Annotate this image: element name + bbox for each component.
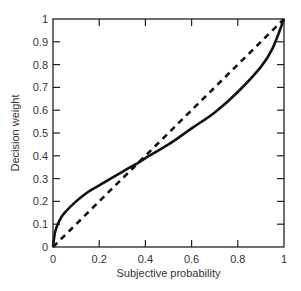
y-tick-label: 0.2 [33, 195, 48, 207]
series-layer [53, 19, 284, 247]
probability-weighting-chart: 00.10.20.30.40.50.60.70.80.91 00.20.40.6… [0, 0, 301, 291]
x-axis-title: Subjective probability [117, 267, 221, 279]
y-tick-label: 0.5 [33, 127, 48, 139]
y-tick-label: 0.1 [33, 218, 48, 230]
y-tick-label: 0 [42, 241, 48, 253]
identity-line [53, 19, 284, 247]
y-axis-title: Decision weight [9, 94, 21, 171]
y-tick-label: 0.3 [33, 173, 48, 185]
y-tick-label: 0.7 [33, 81, 48, 93]
x-tick-label: 0.8 [230, 253, 245, 265]
x-tick-label: 0.2 [92, 253, 107, 265]
y-tick-label: 0.6 [33, 104, 48, 116]
y-tick-label: 0.4 [33, 150, 48, 162]
x-tick-label: 1 [281, 253, 287, 265]
x-tick-label: 0.6 [184, 253, 199, 265]
x-tick-label: 0 [50, 253, 56, 265]
x-axis-ticks: 00.20.40.60.81 [50, 19, 287, 265]
x-tick-label: 0.4 [138, 253, 153, 265]
y-tick-label: 0.8 [33, 59, 48, 71]
y-tick-label: 0.9 [33, 36, 48, 48]
y-tick-label: 1 [42, 13, 48, 25]
y-axis-ticks: 00.10.20.30.40.50.60.70.80.91 [33, 13, 284, 253]
